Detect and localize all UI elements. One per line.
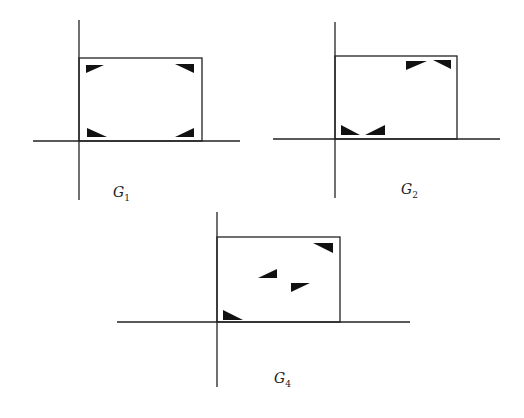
label-g4-main: G — [274, 370, 285, 386]
label-g2-sub: 2 — [412, 190, 418, 200]
label-g4-sub: 4 — [285, 379, 291, 389]
triangle-marker — [223, 310, 243, 320]
rectangle-region — [335, 56, 457, 139]
label-g2: G2 — [401, 181, 418, 200]
label-g1-main: G — [113, 184, 124, 200]
rectangle-region — [217, 237, 340, 322]
rectangle-region — [79, 58, 202, 141]
panel-g1 — [33, 20, 240, 200]
label-g1: G1 — [113, 184, 130, 203]
triangle-marker — [86, 65, 104, 73]
triangle-marker — [175, 64, 194, 73]
triangle-marker — [87, 128, 107, 137]
panel-g4 — [117, 212, 410, 387]
label-g4: G4 — [274, 370, 291, 389]
triangle-marker — [313, 243, 333, 253]
triangle-marker — [258, 269, 277, 278]
panel-g2 — [273, 22, 500, 198]
label-g1-sub: 1 — [124, 193, 130, 203]
triangle-marker — [433, 60, 451, 69]
label-g2-main: G — [401, 181, 412, 197]
triangle-marker — [341, 125, 360, 135]
triangle-marker — [291, 283, 310, 292]
diagram-canvas — [0, 0, 524, 418]
triangle-marker — [175, 128, 194, 137]
triangle-marker — [406, 61, 427, 70]
triangle-marker — [365, 125, 385, 135]
